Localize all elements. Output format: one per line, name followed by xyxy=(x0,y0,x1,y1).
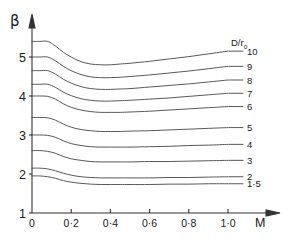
data-curve xyxy=(32,168,228,178)
y-tick-label: 4 xyxy=(19,90,26,104)
y-axis-arrow-icon xyxy=(29,14,35,28)
chart-figure: 54321 00·20·40·60·81·0 β M D/ro 10987654… xyxy=(0,0,291,243)
y-tick-label: 5 xyxy=(19,51,26,65)
legend-item-label: 5 xyxy=(247,122,252,133)
data-curve xyxy=(32,57,228,78)
legend-items: 10987654321·5 xyxy=(229,46,261,190)
x-tick-label: 0·8 xyxy=(181,217,196,229)
legend-item-label: 1·5 xyxy=(247,178,261,189)
legend-item-label: 3 xyxy=(247,155,252,166)
plot-area: 54321 00·20·40·60·81·0 β M D/ro 10987654… xyxy=(0,0,291,243)
x-tick-label: 0·6 xyxy=(142,217,157,229)
curve-group xyxy=(32,41,228,185)
y-tick-label: 2 xyxy=(19,168,26,182)
data-curve xyxy=(32,96,228,112)
x-tick-labels: 00·20·40·60·81·0 xyxy=(29,217,236,229)
y-tick-label: 3 xyxy=(19,129,26,143)
legend: D/ro 10987654321·5 xyxy=(229,37,261,189)
legend-item-label: 9 xyxy=(247,61,252,72)
data-curve xyxy=(32,135,228,147)
legend-title: D/ro xyxy=(231,37,248,50)
x-tick-label: 1·0 xyxy=(220,217,235,229)
x-axis-label: M xyxy=(255,216,265,230)
x-tick-marks xyxy=(71,209,228,213)
y-tick-label: 1 xyxy=(19,207,26,221)
legend-item-label: 4 xyxy=(247,139,252,150)
y-tick-labels: 54321 xyxy=(19,51,26,221)
x-tick-label: 0 xyxy=(29,217,35,229)
data-curve xyxy=(32,117,228,131)
legend-item-label: 6 xyxy=(247,101,252,112)
data-curve xyxy=(32,84,228,101)
x-tick-label: 0·2 xyxy=(64,217,79,229)
data-curve xyxy=(32,41,228,65)
legend-item-label: 7 xyxy=(247,88,252,99)
x-axis-arrow-icon xyxy=(266,210,280,216)
data-curve xyxy=(32,151,228,162)
y-axis-label: β xyxy=(10,12,20,30)
legend-item-label: 8 xyxy=(247,75,252,86)
data-curve xyxy=(32,70,228,89)
legend-item-label: 10 xyxy=(247,46,258,57)
x-tick-label: 0·4 xyxy=(103,217,118,229)
